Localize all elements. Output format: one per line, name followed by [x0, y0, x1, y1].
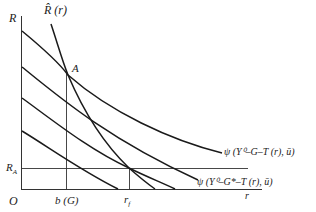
r-a-subscript: A [13, 168, 17, 176]
psi-lower-label: ψ (Y⁰–G*–T (r), ū) [197, 177, 273, 187]
r-a-main: R [6, 161, 13, 173]
x-axis-label: r [245, 191, 249, 201]
r-f-subscript: f [128, 200, 130, 208]
r-a-label: RA [6, 162, 17, 176]
r-f-label: rf [124, 194, 130, 208]
origin-label: O [9, 195, 18, 207]
point-a-label: A [72, 63, 79, 74]
psi-upper-label: ψ (Y⁰–G–T (r), ū) [224, 147, 295, 157]
psi-curve-3 [22, 98, 175, 189]
b-g-label: b (G) [55, 195, 79, 206]
psi-curve-2 [22, 67, 198, 180]
y-axis-label: R [9, 12, 16, 24]
rhat-curve-label: R̂ (r) [44, 4, 67, 16]
diagram-canvas: R R̂ (r) A RA O b (G) rf r ψ (Y⁰–G–T (r)… [0, 0, 316, 212]
